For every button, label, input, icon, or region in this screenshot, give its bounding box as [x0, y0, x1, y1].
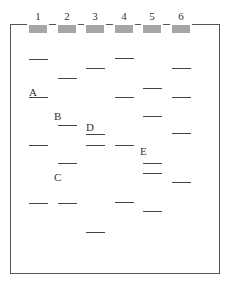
- gel-frame-top-segment: [192, 24, 220, 25]
- sample-well: [143, 25, 161, 33]
- gel-frame-top-segment: [10, 24, 27, 25]
- lane-number: 4: [115, 10, 133, 22]
- dna-band: [143, 211, 162, 212]
- band-label: A: [29, 86, 37, 98]
- dna-band: [172, 133, 191, 134]
- dna-band: [58, 203, 77, 204]
- dna-band: [115, 145, 134, 146]
- dna-band: [86, 68, 105, 69]
- gel-frame-left: [10, 24, 11, 273]
- band-label: C: [54, 171, 61, 183]
- gel-frame-top-segment: [106, 24, 113, 25]
- dna-band: [58, 78, 77, 79]
- sample-well: [86, 25, 104, 33]
- gel-frame-bottom: [10, 273, 220, 274]
- dna-band: [86, 232, 105, 233]
- gel-frame-top-segment: [135, 24, 141, 25]
- dna-band: [143, 88, 162, 89]
- dna-band: [143, 173, 162, 174]
- dna-band: [58, 163, 77, 164]
- sample-well: [29, 25, 47, 33]
- gel-frame-top-segment: [78, 24, 84, 25]
- dna-band: [172, 97, 191, 98]
- gel-frame-right: [219, 24, 220, 273]
- gel-frame-top-segment: [163, 24, 170, 25]
- dna-band: [143, 116, 162, 117]
- dna-band: [29, 203, 48, 204]
- dna-band: [86, 134, 105, 135]
- sample-well: [115, 25, 133, 33]
- dna-band: [172, 68, 191, 69]
- sample-well: [58, 25, 76, 33]
- lane-number: 3: [86, 10, 104, 22]
- dna-band: [58, 125, 77, 126]
- dna-band: [172, 182, 191, 183]
- lane-number: 5: [143, 10, 161, 22]
- dna-band: [115, 58, 134, 59]
- dna-band: [143, 163, 162, 164]
- band-label: D: [86, 121, 94, 133]
- dna-band: [115, 202, 134, 203]
- dna-band: [86, 145, 105, 146]
- band-label: B: [54, 110, 61, 122]
- band-label: E: [140, 145, 147, 157]
- dna-band: [29, 145, 48, 146]
- dna-band: [29, 59, 48, 60]
- gel-frame-top-segment: [49, 24, 56, 25]
- lane-number: 2: [58, 10, 76, 22]
- lane-number: 6: [172, 10, 190, 22]
- dna-band: [115, 97, 134, 98]
- sample-well: [172, 25, 190, 33]
- lane-number: 1: [29, 10, 47, 22]
